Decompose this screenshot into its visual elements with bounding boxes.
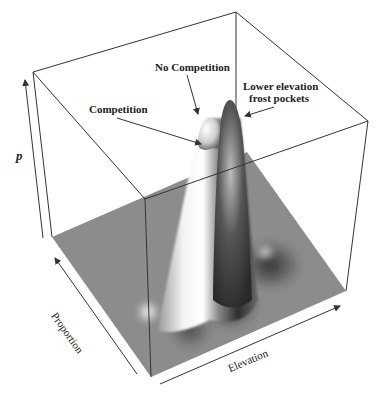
surface-plot	[0, 0, 378, 396]
p-axis-arrow	[25, 80, 43, 238]
label-frost-pockets: Lower elevation frost pockets	[243, 80, 315, 104]
label-no-competition: No Competition	[155, 61, 230, 73]
label-frost-line1: Lower elevation	[243, 80, 315, 92]
label-competition: Competition	[89, 103, 148, 115]
label-frost-line2: frost pockets	[243, 92, 315, 104]
axis-label-p: p	[16, 148, 23, 164]
